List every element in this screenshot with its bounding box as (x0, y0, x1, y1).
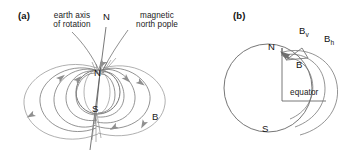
panel-b-equator-label: equator (290, 89, 318, 98)
rotation-axis-line (90, 27, 106, 150)
field-line-right-2 (97, 69, 135, 123)
horizontal-component-label: Bh (324, 34, 334, 44)
earth-south-pole-label: S (92, 104, 98, 114)
panel-b-tag: (b) (233, 11, 245, 21)
magnetic-pole-caption-line2: north pople (136, 20, 178, 29)
panel-a-tag: (a) (18, 11, 30, 21)
magnetic-pole-caption-line1: magnetic (140, 11, 174, 20)
panel-b-north-label: N (268, 42, 275, 52)
panel-b-south-label: S (262, 124, 268, 134)
field-line-right-1 (96, 68, 150, 128)
panel-a-graphics (24, 27, 165, 150)
horizontal-component-subscript: h (330, 39, 334, 46)
earth-axis-caption-line2: of rotation (53, 20, 90, 29)
magnetic-field-figure: .ln { fill:none; stroke:#787878; stroke-… (0, 0, 358, 168)
field-arrow-lower-right (138, 119, 148, 130)
magnetic-caption-leader (103, 30, 128, 70)
panel-a-field-label: B (152, 112, 158, 122)
earth-axis-caption: earth axis of rotation (42, 12, 102, 30)
field-arrow-bottom-right (108, 123, 119, 133)
geographic-north-label: N (103, 12, 110, 22)
resultant-field-label: B (296, 60, 302, 70)
earth-axis-caption-line1: earth axis (54, 11, 90, 20)
south-convergence-1 (92, 114, 95, 140)
vertical-component-label: Bv (299, 26, 309, 36)
earth-north-pole-label: N (94, 68, 101, 78)
vertical-component-subscript: v (305, 31, 308, 38)
panel-b-graphics (224, 44, 338, 135)
magnetic-pole-caption: magnetic north pople (126, 12, 188, 30)
